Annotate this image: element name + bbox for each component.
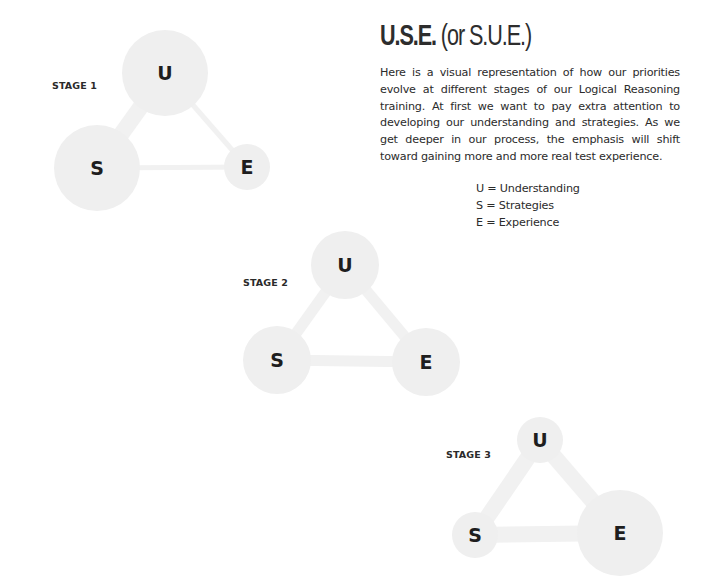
- page-title: U.S.E. (or S.U.E.): [380, 18, 531, 52]
- legend-item-experience: E = Experience: [476, 215, 580, 232]
- stage-3-node-experience-letter: E: [614, 522, 627, 544]
- stage-1-label: STAGE 1: [52, 80, 97, 91]
- stage-3-label: STAGE 3: [446, 449, 491, 460]
- stage-3-node-understanding-letter: U: [532, 429, 547, 451]
- stage-2-diagram: USE: [243, 231, 460, 396]
- stage-1-node-understanding-letter: U: [157, 62, 172, 84]
- stage-3-node-strategies-letter: S: [468, 524, 482, 546]
- description-paragraph: Here is a visual representation of how o…: [380, 65, 680, 166]
- stage-2-node-understanding-letter: U: [337, 254, 352, 276]
- legend-item-strategies: S = Strategies: [476, 198, 580, 215]
- stage-3-diagram: USE: [452, 417, 663, 576]
- stage-2-node-experience-letter: E: [420, 351, 433, 373]
- stage-2-node-strategies-letter: S: [270, 349, 284, 371]
- stage-2-label: STAGE 2: [243, 277, 288, 288]
- title-alt: (or S.U.E.): [441, 18, 531, 51]
- legend: U = Understanding S = Strategies E = Exp…: [476, 181, 580, 231]
- stage-1-node-experience-letter: E: [241, 156, 254, 178]
- legend-item-understanding: U = Understanding: [476, 181, 580, 198]
- stage-1-diagram: USE: [54, 30, 270, 211]
- title-main: U.S.E.: [380, 18, 436, 51]
- stage-1-node-strategies-letter: S: [90, 157, 104, 179]
